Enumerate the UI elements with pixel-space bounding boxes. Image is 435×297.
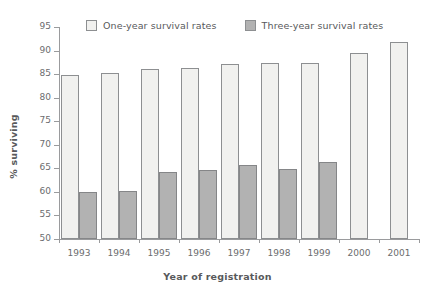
bar-three-year-1994 <box>119 191 137 239</box>
y-axis-title-text: % surviving <box>8 114 19 179</box>
y-tick-75: 75 <box>54 121 59 122</box>
plot-area: 50556065707580859095 1993199419951996199… <box>59 27 419 239</box>
x-tick-origin <box>59 239 60 243</box>
bar-one-year-2001 <box>390 42 408 239</box>
y-tick-label-50: 50 <box>40 233 51 243</box>
bar-three-year-1997 <box>239 165 257 239</box>
bar-one-year-1997 <box>221 64 239 239</box>
y-tick-label-80: 80 <box>40 92 51 102</box>
bar-one-year-1994 <box>101 73 119 239</box>
x-tick-2001 <box>419 239 420 243</box>
x-axis-label-1993: 1993 <box>68 248 91 258</box>
y-tick-65: 65 <box>54 168 59 169</box>
x-axis-label-2000: 2000 <box>348 248 371 258</box>
x-tick-1995 <box>179 239 180 243</box>
y-tick-label-70: 70 <box>40 139 51 149</box>
bar-three-year-1999 <box>319 162 337 239</box>
y-tick-60: 60 <box>54 192 59 193</box>
bar-three-year-1996 <box>199 170 217 239</box>
y-tick-label-75: 75 <box>40 115 51 125</box>
y-tick-85: 85 <box>54 74 59 75</box>
x-axis-title: Year of registration <box>0 271 435 282</box>
y-tick-label-90: 90 <box>40 45 51 55</box>
x-tick-1999 <box>339 239 340 243</box>
x-tick-1993 <box>99 239 100 243</box>
bar-one-year-1993 <box>61 75 79 239</box>
y-tick-label-65: 65 <box>40 162 51 172</box>
y-tick-90: 90 <box>54 51 59 52</box>
bar-three-year-1993 <box>79 192 97 239</box>
x-axis-line <box>59 239 419 240</box>
x-axis-label-1999: 1999 <box>308 248 331 258</box>
x-tick-1996 <box>219 239 220 243</box>
survival-rates-bar-chart: One-year survival rates Three-year survi… <box>0 0 435 297</box>
x-axis-label-1996: 1996 <box>188 248 211 258</box>
bar-one-year-2000 <box>350 53 368 239</box>
bar-one-year-1999 <box>301 63 319 239</box>
y-tick-55: 55 <box>54 215 59 216</box>
x-tick-1994 <box>139 239 140 243</box>
x-tick-2000 <box>379 239 380 243</box>
x-axis-label-1998: 1998 <box>268 248 291 258</box>
x-tick-1998 <box>299 239 300 243</box>
y-tick-80: 80 <box>54 98 59 99</box>
bar-one-year-1995 <box>141 69 159 239</box>
x-axis-label-2001: 2001 <box>388 248 411 258</box>
y-tick-label-60: 60 <box>40 186 51 196</box>
bar-three-year-1998 <box>279 169 297 239</box>
bar-one-year-1998 <box>261 63 279 239</box>
bar-three-year-1995 <box>159 172 177 239</box>
x-tick-1997 <box>259 239 260 243</box>
y-tick-label-55: 55 <box>40 209 51 219</box>
x-axis-label-1995: 1995 <box>148 248 171 258</box>
y-tick-95: 95 <box>54 27 59 28</box>
y-tick-label-85: 85 <box>40 68 51 78</box>
bar-one-year-1996 <box>181 68 199 239</box>
y-tick-70: 70 <box>54 145 59 146</box>
y-axis-title: % surviving <box>4 96 22 196</box>
x-axis-label-1997: 1997 <box>228 248 251 258</box>
y-axis-line <box>59 27 60 240</box>
y-tick-label-95: 95 <box>40 21 51 31</box>
x-axis-label-1994: 1994 <box>108 248 131 258</box>
x-axis-title-text: Year of registration <box>163 271 271 282</box>
